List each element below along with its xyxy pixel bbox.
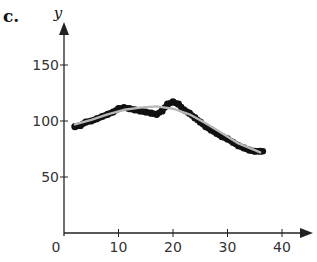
y-tick-label: 150 <box>32 57 59 73</box>
x-axis-arrow-icon <box>300 228 313 238</box>
x-tick-label: 40 <box>273 239 291 255</box>
y-tick-label: 50 <box>41 169 59 185</box>
y-axis-label: y <box>53 4 63 22</box>
x-tick-label: 0 <box>52 239 61 255</box>
x-tick-label: 10 <box>110 239 128 255</box>
y-tick-label: 100 <box>32 113 59 129</box>
x-tick-label: 30 <box>219 239 237 255</box>
x-tick-label: 20 <box>164 239 182 255</box>
y-axis-arrow-icon <box>59 22 69 35</box>
scatter-chart: y01020304050100150 <box>0 0 317 262</box>
